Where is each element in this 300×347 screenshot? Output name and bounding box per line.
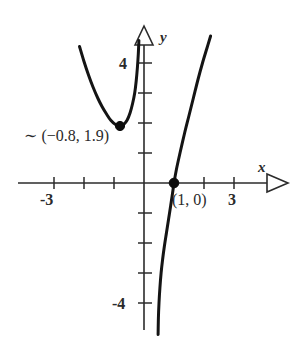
parabola-curve (80, 41, 139, 127)
y-tick-label-neg4: -4 (112, 296, 125, 312)
coordinate-plot (0, 0, 300, 347)
x-tick-label-neg3: -3 (40, 192, 53, 208)
x-axis-label: x (258, 160, 266, 175)
x-axis-arrowhead-icon (267, 174, 288, 192)
vertex-point-marker (115, 121, 124, 130)
cubic-curve (158, 36, 211, 335)
x-intercept-point-marker (169, 178, 179, 188)
x-intercept-annotation: (1, 0) (172, 192, 207, 208)
y-tick-label-4: 4 (119, 56, 127, 72)
y-axis-label: y (160, 30, 167, 45)
x-tick-label-3: 3 (228, 192, 236, 208)
vertex-annotation: ∼ (−0.8, 1.9) (24, 128, 109, 144)
graph-figure: y x 4 -4 -3 3 ∼ (−0.8, 1.9) (1, 0) (0, 0, 300, 347)
